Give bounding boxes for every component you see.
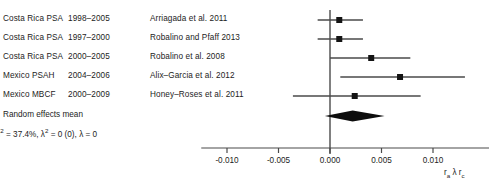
x-axis-tick-label: 0.000	[320, 156, 341, 165]
effect-size-marker	[352, 93, 358, 99]
forest-plot-figure: Costa Rica PSA Costa Rica PSA Costa Rica…	[0, 0, 489, 188]
pooled-effect-diamond	[325, 111, 385, 122]
x-axis-title-lambda: λ	[452, 168, 456, 177]
x-axis-title-sub-c: c	[462, 172, 465, 179]
effect-size-marker	[336, 36, 342, 42]
x-axis-tick-label: -0.005	[267, 156, 290, 165]
x-axis-tick-label: 0.010	[423, 156, 444, 165]
x-axis-title: ra λ rc	[444, 168, 465, 179]
effect-size-marker	[336, 17, 342, 23]
effect-size-marker	[397, 74, 403, 80]
effect-size-marker	[368, 55, 374, 61]
x-axis-tick-label: -0.010	[215, 156, 238, 165]
x-axis-title-sub-a: a	[447, 172, 450, 179]
x-axis-tick-label: 0.005	[371, 156, 392, 165]
forest-plot-canvas	[0, 0, 489, 188]
